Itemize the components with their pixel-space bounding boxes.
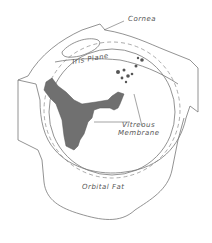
label-membrane: Membrane: [118, 129, 160, 137]
vitreous-floaters: [116, 57, 144, 83]
label-vitreous: Vitreous: [122, 121, 155, 129]
cornea-pointer: [104, 21, 124, 30]
vitreous-membrane-shape: [44, 78, 124, 150]
eye-diagram: [0, 0, 212, 243]
label-orbital-fat: Orbital Fat: [82, 183, 125, 191]
label-cornea: Cornea: [128, 15, 156, 23]
